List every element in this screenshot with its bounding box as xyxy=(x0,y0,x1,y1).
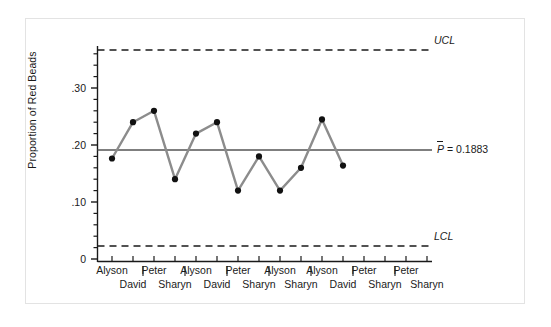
data-point xyxy=(193,131,199,137)
y-axis-title: Proportion of Red Beads xyxy=(26,0,38,220)
x-label-peter-4: Peter xyxy=(374,264,438,276)
data-point xyxy=(277,188,283,194)
x-label-alyson-4: Alyson xyxy=(248,264,312,276)
y-tick-label-20: .20 xyxy=(52,139,86,151)
y-tick-label-30: .30 xyxy=(52,82,86,94)
x-label-sharyn-5: Sharyn xyxy=(395,278,459,290)
data-point xyxy=(214,119,220,125)
data-point xyxy=(235,188,241,194)
data-point xyxy=(109,155,115,161)
data-point xyxy=(256,153,262,159)
x-ticks xyxy=(112,256,427,262)
data-point xyxy=(151,108,157,114)
x-label-sharyn-4: Sharyn xyxy=(269,278,333,290)
lcl-label: LCL xyxy=(434,230,453,242)
y-major-ticks xyxy=(91,88,98,259)
data-point xyxy=(319,116,325,122)
ucl-label: UCL xyxy=(434,34,455,46)
data-point xyxy=(340,163,346,169)
center-line-label: P= 0.1883 xyxy=(437,143,488,155)
y-tick-label-10: .10 xyxy=(52,196,86,208)
data-point xyxy=(130,119,136,125)
data-point xyxy=(172,176,178,182)
data-point xyxy=(298,165,304,171)
p-bar-symbol: P xyxy=(437,142,444,155)
center-line-value: = 0.1883 xyxy=(444,143,488,155)
